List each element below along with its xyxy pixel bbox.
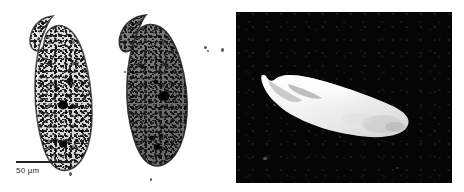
- debris-speck: [207, 50, 209, 52]
- light-micrograph-specimen-right: [112, 10, 204, 172]
- scale-bar: 50 µm: [16, 161, 74, 176]
- debris-speck: [273, 104, 276, 106]
- debris-speck: [150, 178, 152, 181]
- micrograph-figure: 50 µm: [0, 0, 464, 192]
- debris-speck: [204, 46, 207, 49]
- light-micrograph-panel: 50 µm: [0, 0, 232, 192]
- debris-speck: [396, 167, 399, 169]
- dark-field-specimen: [258, 64, 428, 142]
- debris-speck: [221, 48, 224, 52]
- debris-speck: [124, 71, 126, 73]
- debris-speck: [339, 136, 341, 138]
- light-micrograph-specimen-left: [22, 10, 110, 176]
- scale-bar-label: 50 µm: [16, 166, 74, 176]
- debris-speck: [127, 68, 129, 70]
- scale-bar-line: [16, 161, 71, 163]
- dark-field-micrograph-panel: [236, 12, 452, 183]
- debris-speck: [263, 157, 267, 160]
